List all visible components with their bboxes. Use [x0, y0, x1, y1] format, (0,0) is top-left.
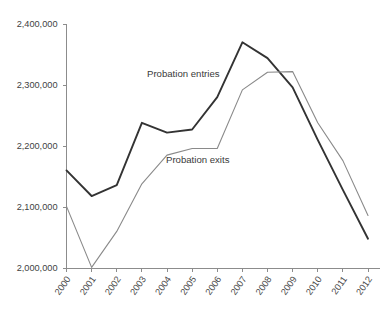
series-annotation-label: Probation exits [166, 154, 230, 165]
x-axis-tick-labels: 2000200120022003200420052006200720082009… [53, 274, 374, 296]
x-axis-tick-label: 2006 [203, 274, 223, 296]
y-axis-tick-label: 2,000,000 [17, 263, 58, 273]
y-axis-tick-marks [63, 25, 67, 269]
x-axis-tick-label: 2004 [153, 274, 173, 296]
x-axis-tick-label: 2002 [103, 274, 123, 296]
x-axis-tick-label: 2000 [53, 274, 73, 296]
x-axis-tick-label: 2012 [354, 274, 374, 296]
series-line-probation-exits [67, 72, 369, 268]
series-annotation-group: Probation entriesProbation exits [147, 68, 230, 165]
line-chart: 2,000,0002,100,0002,200,0002,300,0002,40… [0, 0, 386, 309]
x-axis-tick-label: 2001 [78, 274, 98, 296]
x-axis-tick-label: 2005 [178, 274, 198, 296]
y-axis-tick-labels: 2,000,0002,100,0002,200,0002,300,0002,40… [17, 19, 58, 273]
y-axis-tick-label: 2,400,000 [17, 19, 58, 29]
x-axis-tick-label: 2007 [229, 274, 249, 296]
x-axis-tick-label: 2011 [329, 274, 349, 296]
x-axis-tick-label: 2003 [128, 274, 148, 296]
chart-plot-area: 2,000,0002,100,0002,200,0002,300,0002,40… [0, 0, 386, 309]
x-axis-tick-label: 2008 [254, 274, 274, 296]
y-axis-tick-label: 2,300,000 [17, 80, 58, 90]
x-axis-tick-label: 2010 [304, 274, 324, 296]
y-axis-tick-label: 2,200,000 [17, 141, 58, 151]
series-annotation-label: Probation entries [147, 68, 220, 79]
y-axis-tick-label: 2,100,000 [17, 202, 58, 212]
x-axis-tick-label: 2009 [279, 274, 299, 296]
